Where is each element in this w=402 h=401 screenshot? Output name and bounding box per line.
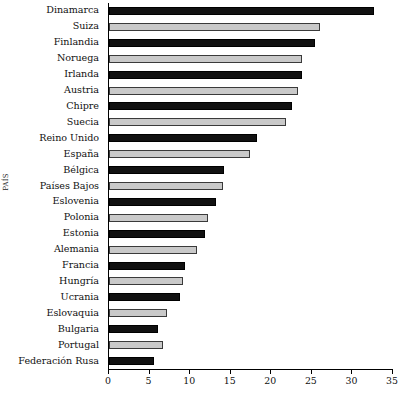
x-tick-mark xyxy=(230,369,231,374)
x-tick-mark xyxy=(311,369,312,374)
category-label: Dinamarca xyxy=(0,5,99,15)
x-tick-mark xyxy=(149,369,150,374)
category-label: Chipre xyxy=(0,101,99,111)
category-label: Países Bajos xyxy=(0,181,99,191)
category-label: Finlandia xyxy=(0,37,99,47)
bar xyxy=(109,55,302,63)
bar xyxy=(109,357,154,365)
bar xyxy=(109,277,183,285)
category-label: Bulgaria xyxy=(0,324,99,334)
category-label: Bélgica xyxy=(0,165,99,175)
bar xyxy=(109,150,250,158)
x-tick-mark xyxy=(392,369,393,374)
bar xyxy=(109,23,320,31)
x-tick-mark xyxy=(108,369,109,374)
category-axis-labels: DinamarcaSuizaFinlandiaNoruegaIrlandaAus… xyxy=(0,3,104,369)
bar xyxy=(109,214,208,222)
bar xyxy=(109,341,163,349)
x-tick-label: 15 xyxy=(215,375,245,386)
category-label: Estonia xyxy=(0,228,99,238)
x-tick-label: 25 xyxy=(296,375,326,386)
bar xyxy=(109,87,298,95)
x-tick-label: 20 xyxy=(255,375,285,386)
x-tick-mark xyxy=(351,369,352,374)
category-label: Polonia xyxy=(0,212,99,222)
bar xyxy=(109,102,292,110)
category-label: Suecia xyxy=(0,117,99,127)
bar xyxy=(109,71,302,79)
x-tick-mark xyxy=(189,369,190,374)
bar xyxy=(109,7,374,15)
bar xyxy=(109,198,216,206)
bar xyxy=(109,230,205,238)
x-tick-label: 0 xyxy=(93,375,123,386)
bar xyxy=(109,118,286,126)
category-label: Hungría xyxy=(0,276,99,286)
bar xyxy=(109,182,223,190)
x-tick-label: 5 xyxy=(134,375,164,386)
category-label: Reino Unido xyxy=(0,133,99,143)
category-label: Alemania xyxy=(0,244,99,254)
category-label: Ucrania xyxy=(0,292,99,302)
category-label: Noruega xyxy=(0,53,99,63)
bar xyxy=(109,309,167,317)
category-label: Federación Rusa xyxy=(0,356,99,366)
bar xyxy=(109,246,197,254)
bar xyxy=(109,39,315,47)
plot-area xyxy=(108,3,392,369)
category-label: Portugal xyxy=(0,340,99,350)
x-tick-label: 35 xyxy=(377,375,402,386)
x-tick-label: 10 xyxy=(174,375,204,386)
category-label: Francia xyxy=(0,260,99,270)
category-label: Irlanda xyxy=(0,69,99,79)
x-tick-label: 30 xyxy=(336,375,366,386)
x-axis-ticks: 05101520253035 xyxy=(108,369,392,399)
bar xyxy=(109,262,185,270)
bar xyxy=(109,293,180,301)
category-label: Austria xyxy=(0,85,99,95)
category-label: Eslovaquia xyxy=(0,308,99,318)
bar xyxy=(109,134,257,142)
bar xyxy=(109,166,224,174)
category-label: Eslovenia xyxy=(0,196,99,206)
bar xyxy=(109,325,158,333)
x-tick-mark xyxy=(270,369,271,374)
category-label: España xyxy=(0,149,99,159)
category-label: Suiza xyxy=(0,21,99,31)
